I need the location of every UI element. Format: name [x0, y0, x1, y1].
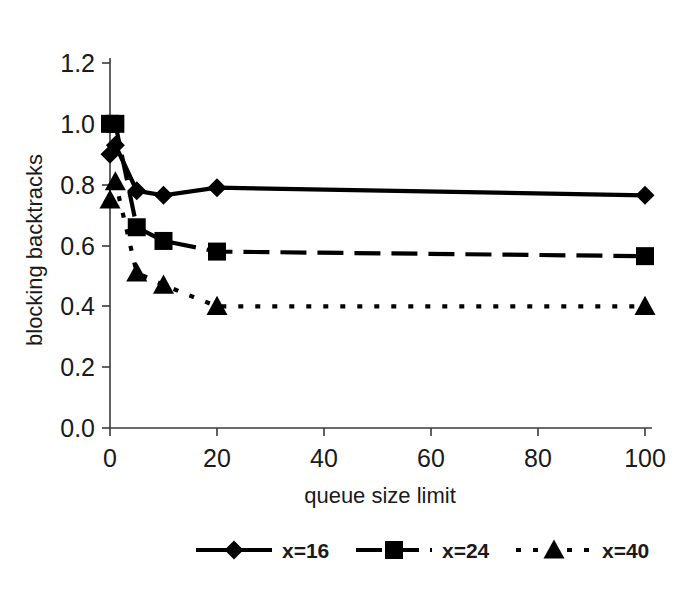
x-tick-label: 100 [624, 444, 666, 472]
data-point-marker-square [155, 232, 173, 250]
data-point-marker-square [106, 115, 124, 133]
y-axis-title: blocking backtracks [22, 154, 47, 346]
legend-label: x=40 [602, 539, 649, 562]
legend-label: x=24 [442, 539, 490, 562]
x-tick-label: 40 [310, 444, 338, 472]
x-tick-label: 0 [103, 444, 117, 472]
y-tick-label: 0.2 [60, 353, 95, 381]
x-tick-label: 20 [203, 444, 231, 472]
y-tick-label: 0.8 [60, 171, 95, 199]
x-axis-title: queue size limit [304, 483, 456, 508]
y-tick-label: 1.0 [60, 110, 95, 138]
y-tick-label: 0.0 [60, 414, 95, 442]
chart-figure: 1.2 1.0 0.8 0.6 0.4 0.2 0.0 0 20 40 60 8… [0, 0, 694, 592]
x-tick-label: 80 [524, 444, 552, 472]
y-tick-label: 0.4 [60, 292, 95, 320]
data-point-marker-square [208, 243, 226, 261]
x-tick-label: 60 [417, 444, 445, 472]
line-chart-svg: 1.2 1.0 0.8 0.6 0.4 0.2 0.0 0 20 40 60 8… [0, 0, 694, 592]
data-point-marker-square [128, 218, 146, 236]
y-tick-label: 1.2 [60, 49, 95, 77]
y-tick-label: 0.6 [60, 232, 95, 260]
legend-marker-square [385, 541, 403, 559]
data-point-marker-square [636, 247, 654, 265]
legend-label: x=16 [282, 539, 329, 562]
